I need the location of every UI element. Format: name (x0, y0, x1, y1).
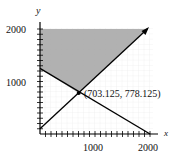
chart: (703.125, 778.125) 2000 1000 1000 2000 y… (0, 0, 170, 156)
point-label: (703.125, 778.125) (84, 88, 161, 100)
x-tick-2000: 2000 (138, 142, 158, 153)
x-axis-label: x (163, 128, 168, 138)
y-tick-2000: 2000 (6, 24, 26, 35)
y-tick-1000: 1000 (6, 77, 26, 88)
y-axis-label: y (35, 5, 41, 16)
x-tick-1000: 1000 (83, 142, 103, 153)
intersection-point (77, 91, 81, 95)
